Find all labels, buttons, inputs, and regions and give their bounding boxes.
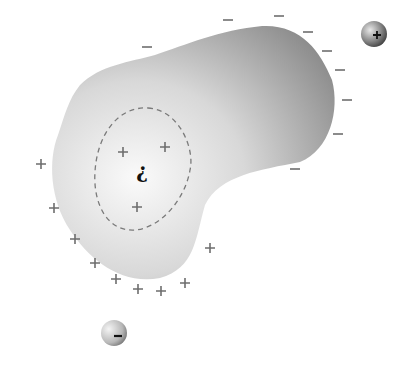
plus-sign (180, 278, 190, 288)
polarized-body (52, 26, 335, 279)
plus-sign (205, 243, 215, 253)
plus-sign (49, 203, 59, 213)
external-positive-sphere (361, 21, 387, 47)
center-symbol: ¿ (136, 159, 148, 183)
plus-sign (133, 284, 143, 294)
external-negative-sphere (101, 320, 127, 346)
plus-sign (111, 274, 121, 284)
plus-sign (156, 286, 166, 296)
diagram-canvas: ¿ (0, 0, 406, 371)
plus-sign (36, 159, 46, 169)
